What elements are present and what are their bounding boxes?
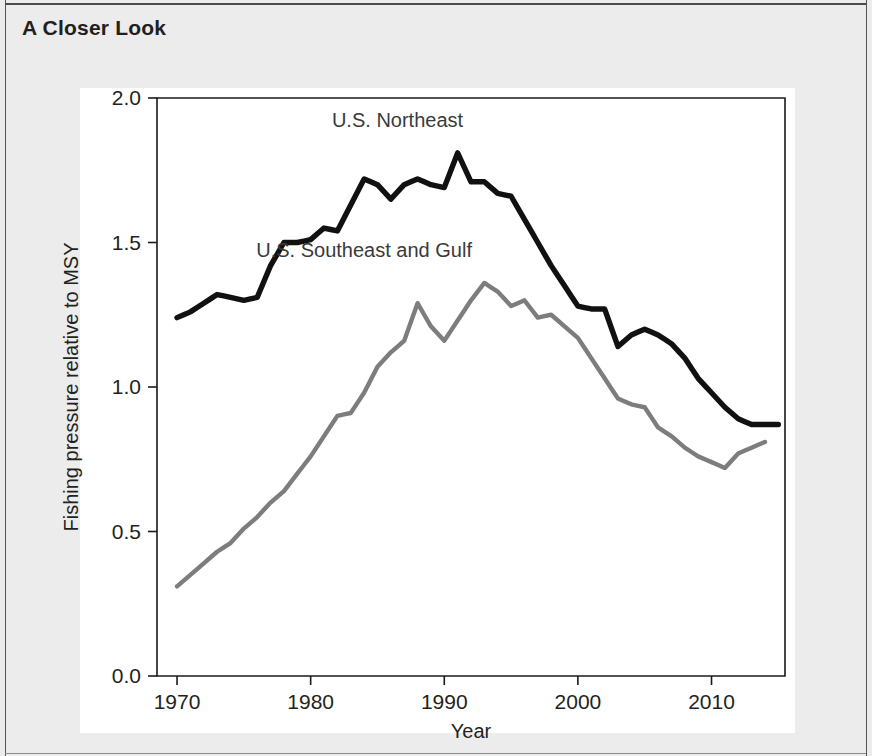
x-tick-label: 1970 [154, 690, 201, 713]
y-tick-label: 1.0 [112, 375, 141, 398]
series-label: U.S. Northeast [332, 109, 464, 131]
y-tick-label: 1.5 [112, 231, 141, 254]
x-axis-title: Year [451, 720, 492, 742]
y-tick-label: 0.0 [112, 664, 141, 687]
y-axis-tick-labels: 0.00.51.01.52.0 [112, 86, 141, 687]
x-tick-label: 1990 [421, 690, 468, 713]
figure-page: A Closer Look 0.00.51.01.52.0 1970198019… [0, 0, 872, 756]
series-label: U.S. Southeast and Gulf [256, 239, 472, 261]
x-axis-tick-labels: 19701980199020002010 [154, 690, 735, 713]
line-chart: 0.00.51.01.52.0 19701980199020002010 U.S… [0, 0, 872, 756]
x-axis-ticks [177, 676, 711, 685]
y-tick-label: 2.0 [112, 86, 141, 109]
y-tick-label: 0.5 [112, 520, 141, 543]
x-tick-label: 2000 [555, 690, 602, 713]
series-line-us-southeast-and-gulf [177, 283, 765, 586]
y-axis-ticks [148, 98, 157, 676]
x-tick-label: 2010 [688, 690, 735, 713]
y-axis-title: Fishing pressure relative to MSY [60, 242, 82, 531]
plot-frame [157, 98, 785, 676]
x-tick-label: 1980 [287, 690, 334, 713]
